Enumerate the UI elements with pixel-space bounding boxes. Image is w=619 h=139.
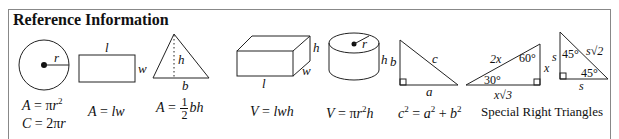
hypotenuse-2x-label: 2x [490, 52, 502, 66]
right-triangle-figure: b c a [390, 40, 458, 99]
op: = [165, 100, 180, 115]
cylinder-volume-formula: V = πr2h [326, 104, 373, 122]
op: = π [335, 106, 357, 121]
circle-area-formula: A = πr2 [22, 96, 62, 114]
var-lwh: lwh [273, 104, 293, 119]
triangle-base-label: b [182, 78, 189, 93]
right-triangle-a-label: a [426, 84, 433, 99]
var-h: h [366, 106, 373, 121]
op: = [409, 106, 424, 121]
cylinder-height-label: h [381, 52, 388, 67]
box-width-label: w [302, 63, 311, 78]
var-C: C [22, 116, 31, 131]
var-A: A [22, 98, 31, 113]
var-b: b [450, 106, 457, 121]
exp: 2 [58, 96, 63, 106]
box-figure: h w l [237, 36, 320, 91]
op: = [259, 104, 274, 119]
side-x-label: x [543, 61, 550, 75]
circle-radius-label: r [54, 50, 60, 65]
var-lw: lw [111, 104, 124, 119]
base-x-root3-label: x√3 [493, 88, 512, 102]
cylinder-figure: r h [329, 33, 388, 80]
angle-45-top-label: 45° [562, 47, 579, 61]
box-volume-formula: V = lwh [250, 104, 294, 120]
pythagorean-formula: c2 = a2 + b2 [398, 104, 462, 122]
cylinder-radius-label: r [362, 36, 368, 51]
angle-30-label: 30° [484, 73, 501, 87]
var-A: A [88, 104, 97, 119]
box-length-label: l [262, 76, 266, 91]
right-triangle-b-label: b [390, 54, 397, 69]
triangle-figure: h b [153, 34, 209, 93]
rectangle-area-formula: A = lw [88, 104, 125, 120]
op: = π [31, 98, 53, 113]
triangle-area-formula: A = 12bh [156, 96, 203, 121]
triangle-45-45-90-figure: s 45° s√2 45° s [552, 32, 608, 93]
denominator: 2 [180, 109, 188, 121]
var-r: r [60, 116, 65, 131]
box-height-label: h [313, 40, 320, 55]
op: + [435, 106, 450, 121]
angle-60-label: 60° [519, 51, 536, 65]
var-bh: bh [189, 100, 203, 115]
var-V: V [326, 106, 335, 121]
var-V: V [250, 104, 259, 119]
op: = 2π [31, 116, 60, 131]
fraction-one-half: 12 [180, 96, 188, 121]
base-s-label: s [579, 79, 584, 93]
rectangle-width-label: w [138, 61, 147, 76]
exp: 2 [457, 104, 462, 114]
var-a: a [424, 106, 431, 121]
op: = [97, 104, 112, 119]
triangle-height-label: h [178, 52, 185, 67]
triangle-30-60-90-figure: 2x 60° 30° x x√3 [466, 44, 550, 102]
rectangle-figure: l w [79, 40, 147, 82]
rectangle-length-label: l [105, 40, 109, 55]
side-s-left-label: s [552, 50, 557, 64]
right-triangle-c-label: c [432, 51, 438, 66]
circle-circumference-formula: C = 2πr [22, 116, 66, 132]
special-right-triangles-caption: Special Right Triangles [481, 104, 603, 120]
hypotenuse-s-root2-label: s√2 [586, 44, 603, 58]
var-A: A [156, 100, 165, 115]
circle-figure: r [19, 40, 69, 90]
angle-45-bottom-label: 45° [581, 66, 598, 80]
